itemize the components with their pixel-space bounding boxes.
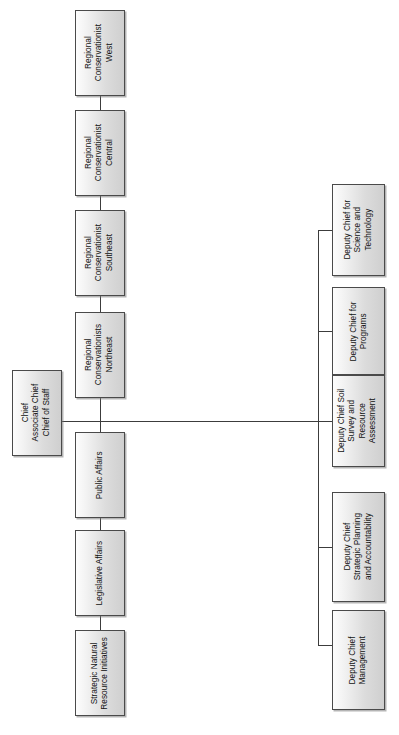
node-deputy-chief-soil-survey[interactable]: Deputy Chief Soil Survey and Resource As… — [332, 375, 385, 467]
node-deputy-chief-management[interactable]: Deputy Chief Management — [332, 610, 385, 710]
node-deputy-chief-programs-label: Deputy Chief for Programs — [348, 301, 369, 361]
node-deputy-chief-management-label: Deputy Chief Management — [348, 636, 369, 684]
connector-right-bus — [318, 230, 319, 645]
node-regional-conservationist-central-label: Regional Conservationist Central — [84, 124, 115, 181]
node-public-affairs-label: Public Affairs — [95, 451, 105, 499]
connector-stub-programs — [318, 331, 332, 332]
node-regional-conservationist-west-label: Regional Conservationist West — [84, 24, 115, 81]
node-regional-conservationists-northeast[interactable]: Regional Conservationists Northeast — [75, 312, 125, 398]
node-legislative-affairs[interactable]: Legislative Affairs — [75, 530, 125, 616]
node-legislative-affairs-label: Legislative Affairs — [95, 541, 105, 606]
node-deputy-chief-soil-survey-label: Deputy Chief Soil Survey and Resource As… — [338, 389, 380, 453]
node-regional-conservationist-west[interactable]: Regional Conservationist West — [75, 10, 125, 96]
node-strategic-natural-resource-initiatives-label: Strategic Natural Resource Initiatives — [90, 637, 111, 709]
node-chief-label: Chief Associate Chief Chief of Staff — [21, 384, 52, 442]
connector-stub-management — [318, 645, 332, 646]
node-regional-conservationist-southeast-label: Regional Conservationist Southeast — [84, 224, 115, 281]
connector-stub-soil-survey — [318, 421, 332, 422]
node-regional-conservationist-central[interactable]: Regional Conservationist Central — [75, 110, 125, 196]
node-deputy-chief-science-technology[interactable]: Deputy Chief for Science and Technology — [332, 184, 385, 276]
node-public-affairs[interactable]: Public Affairs — [75, 432, 125, 518]
connector-stub-strategic-planning — [318, 547, 332, 548]
node-strategic-natural-resource-initiatives[interactable]: Strategic Natural Resource Initiatives — [75, 630, 125, 716]
node-deputy-chief-strategic-planning[interactable]: Deputy Chief Strategic Planning and Acco… — [332, 492, 385, 602]
node-regional-conservationist-southeast[interactable]: Regional Conservationist Southeast — [75, 210, 125, 296]
node-regional-conservationists-northeast-label: Regional Conservationists Northeast — [84, 324, 115, 385]
node-deputy-chief-programs[interactable]: Deputy Chief for Programs — [332, 287, 385, 375]
connector-stub-science-technology — [318, 230, 332, 231]
org-chart-figure: Chief Associate Chief Chief of Staff Reg… — [0, 0, 399, 735]
node-deputy-chief-strategic-planning-label: Deputy Chief Strategic Planning and Acco… — [343, 513, 374, 580]
node-chief[interactable]: Chief Associate Chief Chief of Staff — [12, 370, 62, 456]
node-deputy-chief-science-technology-label: Deputy Chief for Science and Technology — [343, 200, 374, 260]
